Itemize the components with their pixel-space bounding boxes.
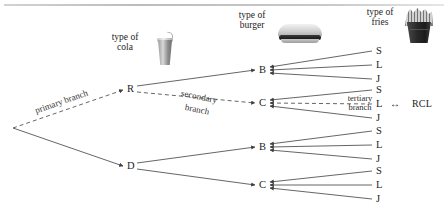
leaf-R-C-L: L [376,98,382,109]
tertiary-branch-label-line2: branch [340,103,380,112]
leaf-R-B-J: J [376,73,380,84]
node-D-C: C [259,179,266,190]
node-R-C: C [259,97,266,108]
fries-caption: type of fries [358,8,402,28]
leaf-R-B-L: L [376,59,382,70]
french-fries-icon [404,8,434,44]
branch-root-to-D [13,128,123,166]
cup-body-shape [158,40,172,65]
branch-DB-to-S [270,131,372,144]
node-D: D [127,160,135,171]
branch-DC-to-S [270,171,372,182]
branch-DB-to-L [270,145,372,147]
burger-caption: type of burger [228,11,276,31]
leaf-D-C-L: L [376,179,382,190]
leaf-D-B-J: J [376,153,380,164]
branch-RB-to-S [270,51,372,67]
leaf-R-C-S: S [376,84,382,95]
tertiary-branch-label: tertiary branch [340,94,380,111]
branch-DB-to-J [270,150,372,159]
branch-DC-to-J [270,188,372,199]
outcome-double-arrow-icon: ↔ [390,99,400,110]
leaf-D-C-J: J [376,193,380,204]
leaf-R-B-S: S [376,45,382,56]
burger-caption-line2: burger [228,21,276,31]
fry-box-stripe [410,29,428,30]
hamburger-icon [278,24,322,44]
branch-RB-to-J [270,73,372,79]
leaf-D-B-S: S [376,125,382,136]
branch-D-to-B [137,147,255,163]
leaf-D-C-S: S [376,165,382,176]
cola-caption: type of cola [103,33,147,53]
leaf-R-C-J: J [376,112,380,123]
branch-D-to-C [137,169,255,185]
soda-cup-icon [155,32,175,65]
fries-caption-line2: fries [358,18,402,28]
node-D-B: B [259,141,266,152]
node-R-B: B [259,64,266,75]
leaf-D-B-L: L [376,139,382,150]
outcome-rcl-label: RCL [412,99,432,110]
node-R: R [127,83,134,94]
fry-box-shape [407,22,431,43]
branch-RB-to-L [270,65,372,70]
cola-caption-line2: cola [103,43,147,53]
bun-bottom-shape [281,39,319,43]
tree-diagram-canvas: type of cola type of burger type of frie… [0,0,447,217]
branch-R-to-B [137,70,255,86]
